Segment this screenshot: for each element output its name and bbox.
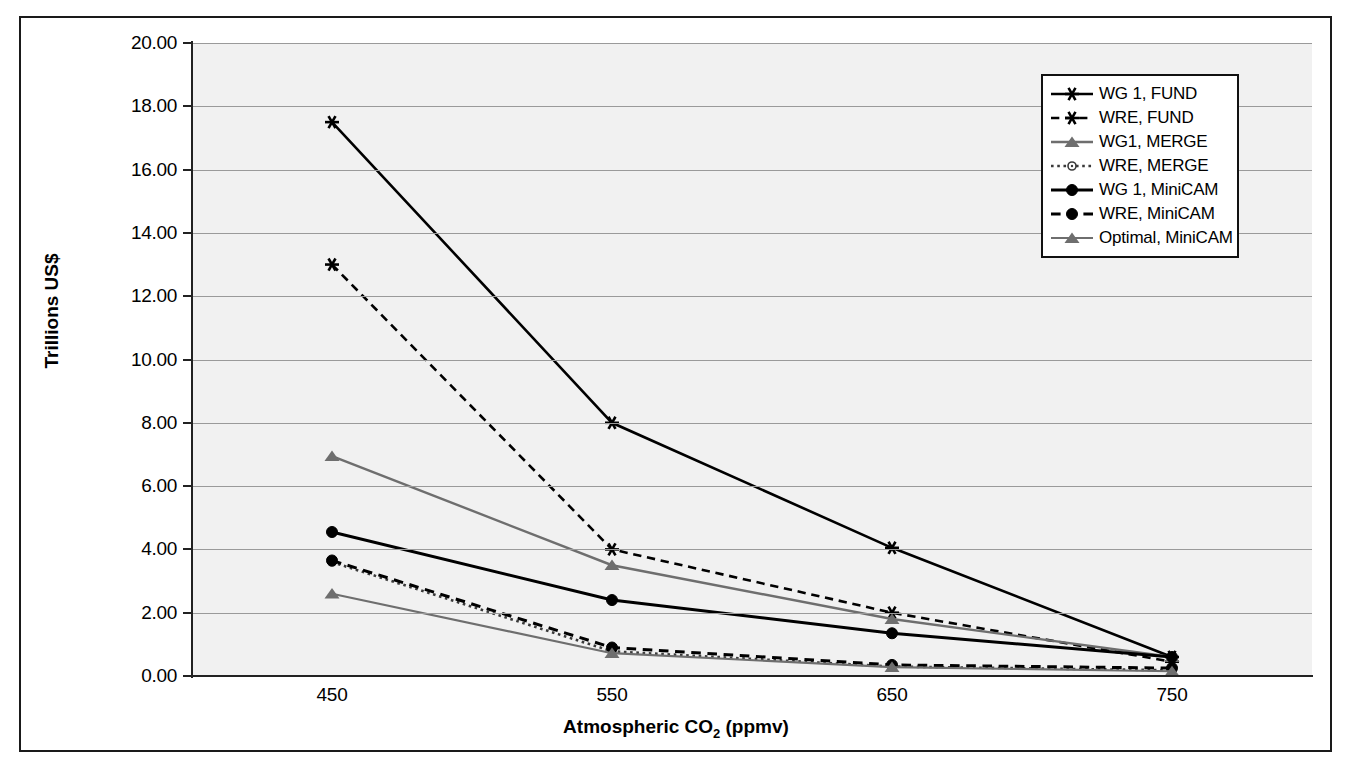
x-axis-title: Atmospheric CO2 (ppmv)	[0, 716, 1352, 741]
legend-item-0[interactable]: WG 1, FUND	[1049, 82, 1231, 106]
y-axis-tick-label: 14.00	[131, 222, 177, 244]
x-axis-line	[191, 675, 1313, 677]
data-point-marker	[1065, 112, 1079, 124]
x-axis-tick-label: 750	[1157, 684, 1188, 706]
legend-item-4[interactable]: WG 1, MiniCAM	[1049, 178, 1231, 202]
y-axis-tick-label: 2.00	[141, 602, 177, 624]
y-axis-tick	[183, 169, 192, 171]
x-axis-tick-label: 550	[597, 684, 628, 706]
x-axis-title-main: Atmospheric CO	[563, 716, 713, 737]
data-point-marker	[1067, 209, 1078, 220]
y-axis-tick	[183, 485, 192, 487]
legend-sample-icon	[1049, 204, 1095, 224]
legend-item-1[interactable]: WRE, FUND	[1049, 106, 1231, 130]
y-axis-tick-label: 20.00	[131, 32, 177, 54]
y-axis-tick-label: 6.00	[141, 475, 177, 497]
gridline	[192, 549, 1312, 550]
legend-sample-icon	[1049, 84, 1095, 104]
y-axis-tick	[183, 675, 192, 677]
gridline	[192, 486, 1312, 487]
legend-sample-icon	[1049, 132, 1095, 152]
gridline	[192, 296, 1312, 297]
legend-label: WRE, MiniCAM	[1099, 204, 1215, 224]
y-axis-tick	[183, 232, 192, 234]
y-axis-tick	[183, 422, 192, 424]
data-point-marker	[1065, 88, 1079, 100]
legend-sample-icon	[1049, 156, 1095, 176]
y-axis-tick	[183, 359, 192, 361]
x-axis-tick-label: 650	[877, 684, 908, 706]
y-axis-tick-label: 8.00	[141, 412, 177, 434]
legend-item-2[interactable]: WG1, MERGE	[1049, 130, 1231, 154]
legend-label: Optimal, MiniCAM	[1099, 228, 1233, 248]
gridline	[192, 360, 1312, 361]
y-axis-title: Trillions US$	[41, 201, 63, 421]
legend-sample-icon	[1049, 180, 1095, 200]
y-axis-tick	[183, 295, 192, 297]
data-point-marker	[1067, 185, 1078, 196]
y-axis-tick	[183, 42, 192, 44]
legend-label: WG 1, MiniCAM	[1099, 180, 1218, 200]
gridline	[192, 423, 1312, 424]
legend-box: WG 1, FUNDWRE, FUNDWG1, MERGEWRE, MERGEW…	[1041, 74, 1239, 258]
legend-label: WRE, FUND	[1099, 108, 1194, 128]
gridline	[192, 613, 1312, 614]
legend-item-3[interactable]: WRE, MERGE	[1049, 154, 1231, 178]
gridline	[192, 43, 1312, 44]
x-axis-tick-label: 450	[317, 684, 348, 706]
data-point-marker	[1068, 162, 1076, 170]
legend-label: WG 1, FUND	[1099, 84, 1197, 104]
y-axis-tick-label: 0.00	[141, 665, 177, 687]
y-axis-tick-label: 10.00	[131, 349, 177, 371]
legend-label: WG1, MERGE	[1099, 132, 1208, 152]
y-axis-tick-label: 18.00	[131, 95, 177, 117]
legend-item-6[interactable]: Optimal, MiniCAM	[1049, 226, 1231, 250]
legend-sample-icon	[1049, 108, 1095, 128]
legend-label: WRE, MERGE	[1099, 156, 1208, 176]
y-axis-tick-label: 16.00	[131, 159, 177, 181]
y-axis-tick	[183, 612, 192, 614]
legend-item-5[interactable]: WRE, MiniCAM	[1049, 202, 1231, 226]
x-axis-title-units: (ppmv)	[720, 716, 789, 737]
legend-sample-icon	[1049, 228, 1095, 248]
figure-canvas: 0.002.004.006.008.0010.0012.0014.0016.00…	[0, 0, 1352, 769]
y-axis-tick-label: 12.00	[131, 285, 177, 307]
y-axis-tick-label: 4.00	[141, 538, 177, 560]
y-axis-tick	[183, 105, 192, 107]
y-axis-tick	[183, 548, 192, 550]
